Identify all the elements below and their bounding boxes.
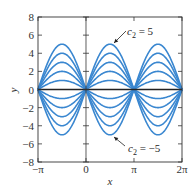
- y-tick-label: −2: [22, 102, 34, 114]
- y-tick-label: 8: [29, 11, 35, 23]
- x-tick-label: 2π: [176, 163, 188, 175]
- y-tick-label: −4: [22, 120, 34, 132]
- x-axis-ticks: −π0π2π: [32, 17, 188, 175]
- chart: −π0π2π −8−6−4−202468 x y c2 = 5c2 = −5: [0, 0, 195, 192]
- x-axis-label: x: [107, 175, 113, 187]
- y-tick-label: 0: [29, 84, 35, 96]
- y-tick-label: 6: [29, 29, 35, 41]
- x-tick-label: π: [131, 163, 137, 175]
- annotation-label: c2 = 5: [127, 25, 154, 40]
- y-tick-label: 4: [29, 47, 35, 59]
- y-axis-label: y: [7, 87, 19, 93]
- annotation-label: c2 = −5: [128, 142, 161, 157]
- y-tick-label: 2: [29, 65, 35, 77]
- y-tick-label: −6: [22, 138, 34, 150]
- y-tick-label: −8: [22, 156, 34, 168]
- x-tick-label: 0: [83, 163, 89, 175]
